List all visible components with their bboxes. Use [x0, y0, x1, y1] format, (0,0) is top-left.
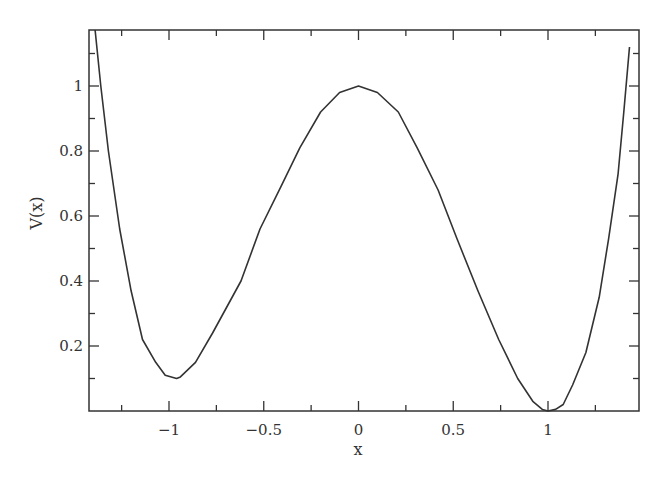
- y-tick-label: 0.2: [59, 337, 83, 355]
- y-tick-label: 0.6: [59, 207, 83, 225]
- potential-curve: [95, 30, 629, 411]
- x-axis-label: x: [353, 440, 362, 459]
- chart: −1−0.500.510.20.40.60.81 x V(x): [0, 0, 664, 484]
- x-tick-label: −1: [158, 421, 180, 439]
- y-axis-label: V(x): [27, 196, 46, 230]
- y-tick-label: 0.4: [59, 272, 83, 290]
- x-tick-label: 0: [354, 421, 364, 439]
- x-tick-label: −0.5: [246, 421, 282, 439]
- x-tick-label: 0.5: [441, 421, 465, 439]
- y-tick-label: 0.8: [59, 142, 83, 160]
- tick-labels: −1−0.500.510.20.40.60.81: [59, 77, 553, 439]
- y-tick-label: 1: [73, 77, 83, 95]
- x-tick-label: 1: [543, 421, 553, 439]
